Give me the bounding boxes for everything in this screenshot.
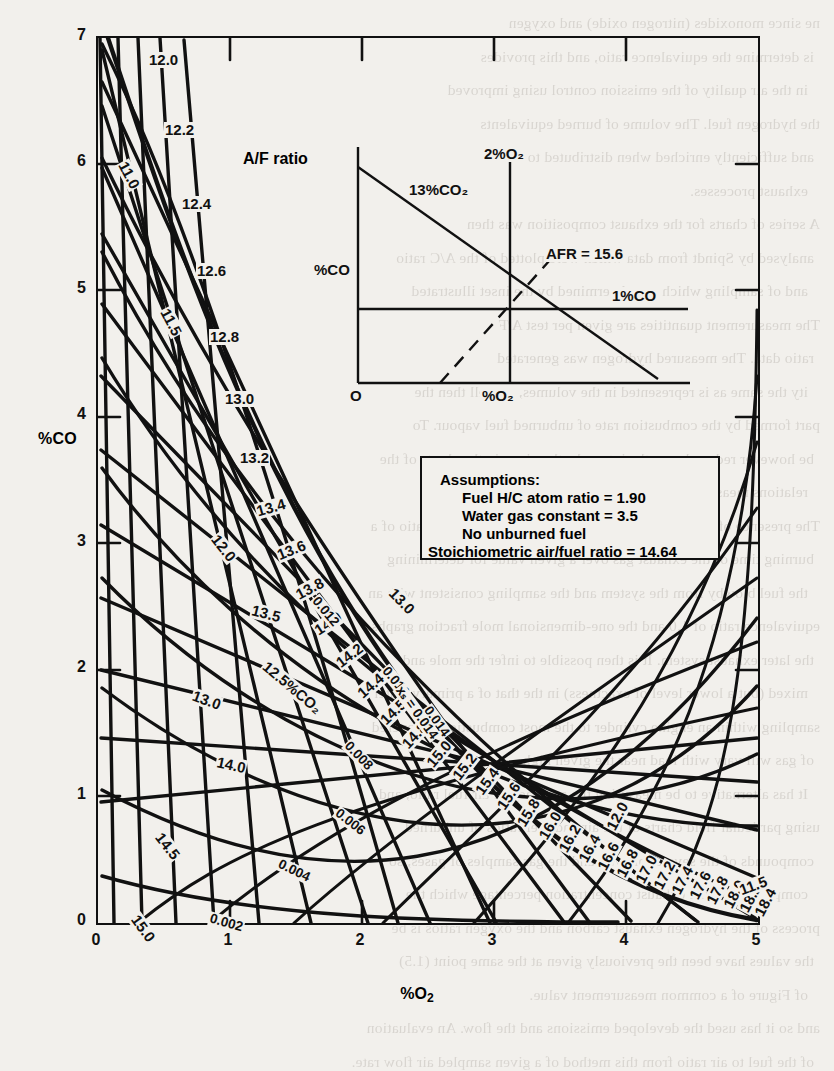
- x-tick-5: 5: [741, 931, 771, 949]
- assumption-fuel-hc-ratio: Fuel H/C atom ratio = 1.90: [462, 489, 718, 506]
- x-axis-title: %O2: [0, 985, 834, 1005]
- bleed-line-0: ne since monoxides (nitrogen oxide) and …: [509, 14, 820, 32]
- y-tick-3: 3: [56, 532, 86, 550]
- x-tick-0: 0: [81, 931, 111, 949]
- af-ratio-caption: A/F ratio: [241, 150, 310, 168]
- bleed-line-30: and so it has used the developed emissio…: [367, 1019, 820, 1037]
- x-axis-title-subscript: 2: [427, 991, 434, 1005]
- inset-label-afr: AFR = 15.6: [544, 245, 625, 262]
- af-label-5: 13.0: [224, 391, 255, 407]
- y-tick-0: 0: [56, 911, 86, 929]
- inset-label-co2: 13%CO₂: [407, 181, 470, 198]
- inset-afr-dashed-line: [440, 251, 558, 383]
- y-tick-7: 7: [56, 26, 86, 44]
- y-axis-title: %CO: [38, 430, 77, 448]
- inset-y-axis-label: %CO: [312, 261, 352, 278]
- inset-diagram-lines: [322, 141, 692, 389]
- y-tick-5: 5: [56, 279, 86, 297]
- af-label-2: 12.4: [181, 196, 212, 212]
- y-tick-6: 6: [56, 152, 86, 170]
- assumptions-box: Assumptions: Fuel H/C atom ratio = 1.90 …: [420, 456, 720, 560]
- af-label-6: 13.2: [239, 450, 270, 466]
- af-label-3: 12.6: [196, 263, 227, 279]
- y-tick-4: 4: [56, 405, 86, 423]
- bleed-line-31: of the fuel to air ratio from this metho…: [351, 1053, 814, 1071]
- inset-co2-line: [358, 167, 658, 379]
- af-label-4: 12.8: [209, 329, 240, 345]
- inset-label-co: 1%CO: [610, 287, 658, 304]
- inset-label-o2: 2%O₂: [482, 145, 526, 162]
- af-label-0: 12.0: [148, 52, 179, 68]
- inset-explanatory-diagram: 13%CO₂ 2%O₂ AFR = 15.6 1%CO %CO %O₂ O: [322, 141, 692, 389]
- x-tick-3: 3: [477, 931, 507, 949]
- inset-x-axis-label: %O₂: [480, 387, 516, 404]
- assumption-stoichiometric-ratio: Stoichiometric air/fuel ratio = 14.64: [428, 543, 718, 560]
- assumption-no-unburned-fuel: No unburned fuel: [462, 525, 718, 542]
- x-axis-title-text: %O: [400, 985, 427, 1002]
- inset-origin-label: O: [348, 387, 364, 404]
- assumptions-heading: Assumptions:: [440, 471, 718, 488]
- y-tick-1: 1: [56, 785, 86, 803]
- af-label-1: 12.2: [164, 122, 195, 138]
- x-tick-2: 2: [345, 931, 375, 949]
- x-tick-4: 4: [609, 931, 639, 949]
- assumption-water-gas-constant: Water gas constant = 3.5: [462, 507, 718, 524]
- y-tick-2: 2: [56, 658, 86, 676]
- y-axis-title-text: %CO: [38, 430, 77, 447]
- bleed-line-28: the values have been the previously give…: [399, 952, 814, 970]
